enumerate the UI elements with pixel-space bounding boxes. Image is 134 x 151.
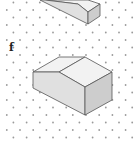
grid-dot [118, 17, 120, 19]
grid-dot [131, 47, 133, 49]
grid-dot [112, 24, 114, 26]
shapes-layer [33, 0, 112, 115]
grid-dot [26, 77, 28, 79]
grid-dot [65, 137, 67, 139]
grid-dot [39, 32, 41, 34]
grid-dot [79, 137, 81, 139]
grid-dot [118, 32, 120, 34]
grid-dot [72, 54, 74, 56]
grid-dot [39, 62, 41, 64]
grid-dot [13, 77, 15, 79]
grid-dot [112, 114, 114, 116]
grid-dot [125, 24, 127, 26]
grid-dot [39, 47, 41, 49]
grid-dot [112, 9, 114, 11]
grid-dot [131, 92, 133, 94]
grid-dot [118, 122, 120, 124]
grid-dot [105, 122, 107, 124]
grid-dot [26, 137, 28, 139]
grid-dot [6, 99, 8, 101]
grid-dot [65, 107, 67, 109]
grid-dot [72, 24, 74, 26]
grid-dot [125, 69, 127, 71]
grid-dot [6, 114, 8, 116]
grid-dot [19, 129, 21, 131]
grid-dot [26, 17, 28, 19]
isometric-dot-paper [0, 0, 134, 151]
grid-dot [105, 17, 107, 19]
grid-dot [46, 114, 48, 116]
grid-dot [52, 107, 54, 109]
grid-dot [19, 24, 21, 26]
grid-dot [85, 129, 87, 131]
shape-e-partial [40, 0, 100, 24]
grid-dot [6, 9, 8, 11]
grid-dot [19, 99, 21, 101]
grid-dot [125, 84, 127, 86]
grid-dot [92, 137, 94, 139]
grid-dot [26, 32, 28, 34]
grid-dot [6, 54, 8, 56]
grid-dot [6, 24, 8, 26]
grid-dot [6, 84, 8, 86]
grid-dot [98, 129, 100, 131]
grid-dot [19, 69, 21, 71]
grid-dot [131, 32, 133, 34]
grid-dot [52, 17, 54, 19]
grid-dot [105, 107, 107, 109]
grid-dot [118, 47, 120, 49]
grid-dot [6, 129, 8, 131]
grid-dot [13, 92, 15, 94]
grid-dot [131, 17, 133, 19]
grid-dot [105, 47, 107, 49]
grid-dot [19, 39, 21, 41]
grid-dot [13, 17, 15, 19]
grid-dot [19, 114, 21, 116]
grid-dot [65, 47, 67, 49]
grid-dot [13, 107, 15, 109]
grid-dot [52, 137, 54, 139]
grid-dot [39, 107, 41, 109]
grid-dot [125, 129, 127, 131]
shape-f [33, 57, 112, 115]
grid-dot [26, 62, 28, 64]
grid-dot [125, 99, 127, 101]
grid-dot [59, 24, 61, 26]
grid-dot [105, 2, 107, 4]
grid-dot [112, 69, 114, 71]
grid-dot [92, 47, 94, 49]
grid-dot [52, 122, 54, 124]
grid-dot [98, 39, 100, 41]
grid-dot [52, 32, 54, 34]
grid-dot [59, 114, 61, 116]
grid-dot [98, 54, 100, 56]
grid-dot [118, 107, 120, 109]
grid-dot [112, 54, 114, 56]
grid-dot [26, 107, 28, 109]
grid-dot [72, 129, 74, 131]
grid-dot [6, 69, 8, 71]
grid-dot [92, 122, 94, 124]
grid-dot [46, 9, 48, 11]
grid-dot [46, 99, 48, 101]
grid-dot [6, 39, 8, 41]
grid-dot [85, 39, 87, 41]
grid-dot [118, 137, 120, 139]
grid-dot [26, 122, 28, 124]
grid-dot [131, 137, 133, 139]
grid-dot [46, 129, 48, 131]
grid-dot [131, 2, 133, 4]
grid-dot [125, 39, 127, 41]
grid-dot [46, 39, 48, 41]
grid-dot [32, 24, 34, 26]
grid-dot [125, 54, 127, 56]
grid-dot [39, 137, 41, 139]
grid-dot [19, 9, 21, 11]
grid-dot [118, 2, 120, 4]
grid-dot [65, 32, 67, 34]
grid-dot [131, 107, 133, 109]
grid-dot [105, 62, 107, 64]
grid-dot [112, 129, 114, 131]
grid-dot [105, 32, 107, 34]
grid-dot [32, 99, 34, 101]
